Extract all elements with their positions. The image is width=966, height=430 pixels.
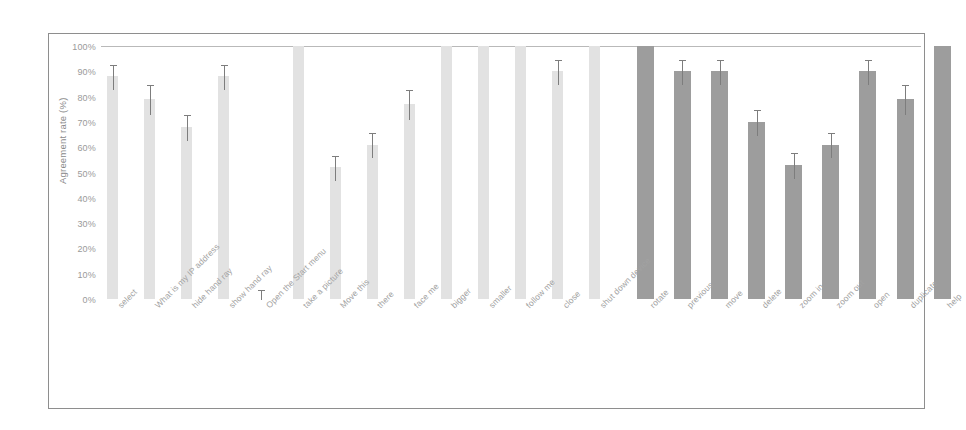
x-axis-tick-label: close xyxy=(561,289,582,310)
bar xyxy=(515,46,526,299)
x-axis-tick-label: there xyxy=(375,289,396,310)
y-axis-tick-label: 0% xyxy=(83,295,96,305)
y-axis-tick-label: 100% xyxy=(72,42,96,52)
x-axis-tick-label: bigger xyxy=(449,286,473,310)
error-bar xyxy=(409,90,410,120)
error-bar-cap xyxy=(110,65,117,66)
y-axis-tick-label: 20% xyxy=(77,244,96,254)
y-axis-tick-label: 80% xyxy=(77,93,96,103)
bar xyxy=(107,76,118,299)
bar xyxy=(934,46,951,299)
error-bar-cap xyxy=(332,156,339,157)
error-bar xyxy=(682,60,683,85)
bar xyxy=(748,122,765,299)
plot-area: 100%90%80%70%60%50%40%30%20%10%0% select… xyxy=(101,46,921,299)
error-bar xyxy=(224,65,225,90)
error-bar xyxy=(720,60,721,85)
y-axis-tick-label: 30% xyxy=(77,219,96,229)
error-bar-cap xyxy=(184,115,191,116)
error-bar-cap xyxy=(791,153,798,154)
error-bar xyxy=(757,110,758,135)
error-bar-cap xyxy=(717,60,724,61)
y-axis-tick-label: 60% xyxy=(77,143,96,153)
error-bar xyxy=(187,115,188,140)
error-bar xyxy=(831,133,832,158)
bar xyxy=(674,71,691,299)
bar xyxy=(785,165,802,299)
x-axis-tick-label: smaller xyxy=(486,283,513,310)
error-bar-cap xyxy=(147,85,154,86)
error-bar-cap xyxy=(754,110,761,111)
y-axis-tick-label: 70% xyxy=(77,118,96,128)
y-axis-tick-label: 10% xyxy=(77,270,96,280)
bar xyxy=(859,71,876,299)
error-bar xyxy=(905,85,906,115)
bar xyxy=(367,145,378,299)
bar xyxy=(552,71,563,299)
error-bar xyxy=(150,85,151,115)
bar xyxy=(478,46,489,299)
x-axis-tick-label: face me xyxy=(412,281,441,310)
bar xyxy=(589,46,600,299)
bar xyxy=(711,71,728,299)
error-bar-cap xyxy=(902,85,909,86)
error-bar-cap xyxy=(369,133,376,134)
error-bar xyxy=(113,65,114,90)
error-bar-cap xyxy=(221,65,228,66)
bar xyxy=(404,104,415,299)
error-bar-cap xyxy=(555,60,562,61)
error-bar xyxy=(335,156,336,181)
y-axis-tick-label: 50% xyxy=(77,169,96,179)
bar xyxy=(293,46,304,299)
bar xyxy=(897,99,914,299)
error-bar-cap xyxy=(865,60,872,61)
error-bar xyxy=(558,60,559,85)
error-bar xyxy=(794,153,795,178)
x-axis-tick-label: select xyxy=(115,287,138,310)
error-bar-cap xyxy=(258,290,265,291)
y-axis-tick-label: 40% xyxy=(77,194,96,204)
error-bar xyxy=(261,290,262,300)
y-axis-title: Agreement rate (%) xyxy=(57,44,68,184)
error-bar xyxy=(868,60,869,85)
error-bar xyxy=(372,133,373,158)
y-axis-tick-label: 90% xyxy=(77,67,96,77)
error-bar-cap xyxy=(828,133,835,134)
error-bar-cap xyxy=(679,60,686,61)
bar xyxy=(144,99,155,299)
bar xyxy=(441,46,452,299)
bar xyxy=(822,145,839,299)
error-bar-cap xyxy=(406,90,413,91)
figure-frame: Agreement rate (%) 100%90%80%70%60%50%40… xyxy=(48,33,925,409)
